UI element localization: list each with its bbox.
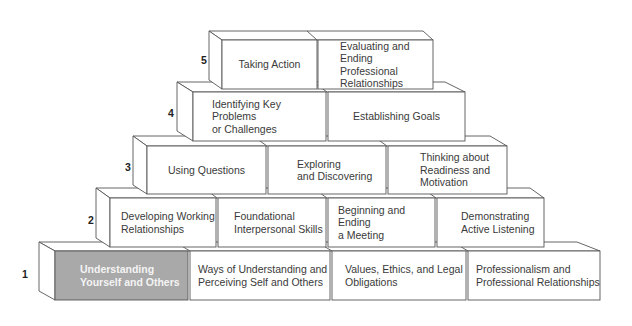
block-using-questions[interactable]: Using Questions: [147, 146, 266, 194]
block-evaluating-and-ending[interactable]: Evaluating and Ending Professional Relat…: [340, 40, 433, 89]
block-thinking-about-readiness[interactable]: Thinking about Readiness and Motivation: [420, 146, 507, 194]
block-identifying-key-problems[interactable]: Identifying Key Problems or Challenges: [212, 92, 326, 141]
block-foundational-interpersonal-skills[interactable]: Foundational Interpersonal Skills: [234, 198, 326, 247]
block-ways-of-understanding[interactable]: Ways of Understanding and Perceiving Sel…: [198, 251, 330, 300]
level-4-left-side: [177, 82, 193, 141]
block-exploring-and-discovering[interactable]: Exploring and Discovering: [297, 146, 386, 194]
level-number-5: 5: [201, 54, 207, 66]
block-demonstrating-active-listening[interactable]: Demonstrating Active Listening: [461, 198, 544, 247]
level-number-1: 1: [22, 268, 28, 280]
level-number-2: 2: [88, 214, 94, 226]
level-number-4: 4: [168, 107, 174, 119]
block-values-ethics-legal[interactable]: Values, Ethics, and Legal Obligations: [345, 251, 466, 300]
level-1-left-side: [39, 242, 55, 300]
block-beginning-and-ending-meeting[interactable]: Beginning and Ending a Meeting: [338, 198, 435, 247]
level-number-3: 3: [125, 161, 131, 173]
block-taking-action[interactable]: Taking Action: [222, 40, 317, 89]
level-3-left-side: [133, 136, 147, 194]
block-professionalism[interactable]: Professionalism and Professional Relatio…: [476, 251, 600, 300]
level-2-left-side: [96, 188, 110, 247]
level-5-left-side: [209, 31, 222, 89]
block-understanding-yourself-and-others[interactable]: Understanding Yourself and Others: [80, 251, 188, 300]
block-developing-working-relationships[interactable]: Developing Working Relationships: [121, 198, 216, 247]
block-establishing-goals[interactable]: Establishing Goals: [328, 92, 465, 141]
